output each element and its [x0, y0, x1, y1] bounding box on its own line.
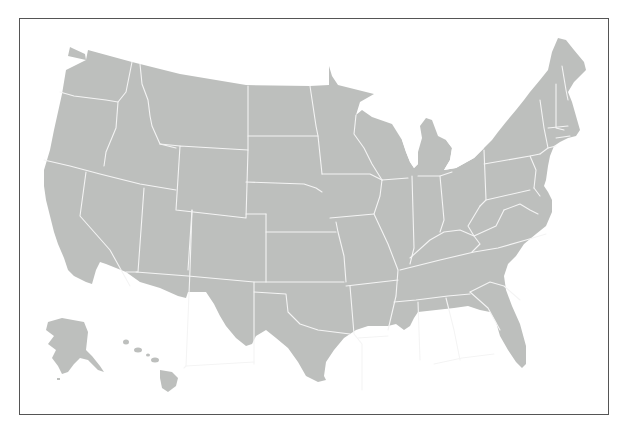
alaska-island: [57, 378, 60, 380]
alaska: [46, 318, 104, 374]
hawaii: [123, 340, 178, 393]
us-map: [0, 0, 627, 432]
